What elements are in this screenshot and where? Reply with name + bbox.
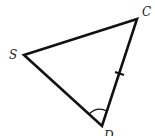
- vertex-label-c: C: [142, 5, 151, 19]
- triangle-SCD: [24, 19, 137, 126]
- vertex-label-s: S: [9, 48, 17, 62]
- vertex-label-d: D: [103, 129, 114, 136]
- angle-arc-d: [89, 109, 107, 114]
- triangle-diagram: S C D: [0, 0, 155, 136]
- tick-mark-cd: [115, 72, 124, 75]
